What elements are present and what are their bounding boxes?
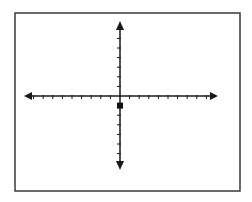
right-arrow-icon xyxy=(210,92,218,100)
down-arrow-icon xyxy=(116,161,124,170)
plotted-point xyxy=(117,103,123,109)
left-arrow-icon xyxy=(24,92,32,100)
plot-frame xyxy=(15,13,240,191)
coordinate-plane xyxy=(0,0,252,202)
x-axis xyxy=(24,92,218,100)
plotted-points xyxy=(117,103,123,109)
up-arrow-icon xyxy=(116,21,124,30)
